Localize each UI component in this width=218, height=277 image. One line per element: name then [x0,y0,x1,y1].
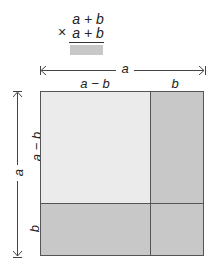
arrow-down-icon [13,251,22,257]
region-bottom-right [150,203,203,255]
region-bottom-left [41,203,150,255]
region-top-left [41,92,150,203]
h-arrow-right-tick [205,66,206,75]
region-top-right [150,92,203,203]
multiplicand-expression: a + b [70,12,106,26]
v-arrow-bottom-tick [13,257,22,258]
left-label-b: b [28,221,41,237]
top-label-a-minus-b: a − b [75,77,115,90]
arrow-right-icon [199,66,205,75]
vertical-dimension-label: a [12,163,25,183]
product-placeholder-box [70,45,103,55]
horizontal-dimension-label: a [116,62,134,76]
multiplier-expression: a + b [70,26,106,40]
area-square [40,91,204,256]
multiply-sign: × [58,25,66,39]
arrow-up-icon [13,91,22,97]
arrow-left-icon [40,66,46,75]
top-label-b: b [165,77,185,90]
product-underline [69,42,104,43]
